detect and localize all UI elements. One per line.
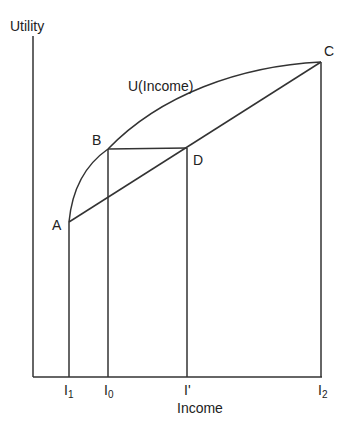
point-a-label: A: [52, 218, 61, 232]
utility-diagram: [0, 0, 349, 426]
curve-label: U(Income): [128, 79, 193, 93]
tick-i1: I1: [64, 383, 73, 400]
y-axis-label: Utility: [10, 19, 44, 33]
tick-iprime: I': [184, 383, 191, 397]
chord-line-ac: [69, 62, 321, 222]
line-bd: [108, 148, 187, 149]
point-d-label: D: [193, 153, 203, 167]
tick-i0: I0: [104, 383, 113, 400]
tick-i2: I2: [318, 383, 327, 400]
x-axis-label: Income: [177, 401, 223, 415]
point-b-label: B: [92, 133, 101, 147]
point-c-label: C: [324, 44, 334, 58]
